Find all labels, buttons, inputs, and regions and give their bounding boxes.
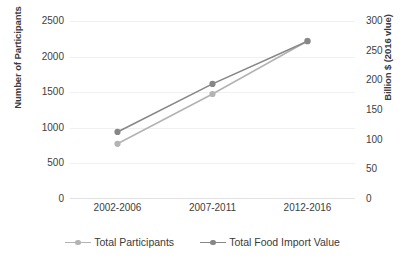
y-axis-left-title: Number of Participants [12, 0, 23, 123]
y-right-tick-250: 250 [366, 46, 383, 56]
y-left-tick-1500: 1500 [42, 87, 64, 97]
data-point [114, 129, 120, 135]
legend-label-total-participants: Total Participants [94, 236, 174, 248]
y-right-tick-100: 100 [366, 135, 383, 145]
y-left-tick-500: 500 [47, 158, 64, 168]
data-point [304, 38, 310, 44]
y-right-tick-50: 50 [366, 164, 377, 174]
y-right-tick-200: 200 [366, 75, 383, 85]
x-axis-label-2007-2011: 2007-2011 [165, 203, 260, 213]
legend-item-total-food-import-value[interactable]: Total Food Import Value [200, 236, 340, 248]
chart-legend: Total Participants Total Food Import Val… [0, 236, 405, 248]
y-right-tick-0: 0 [366, 194, 372, 204]
y-axis-right-title: Billion $ (2016 vlue) [382, 0, 393, 123]
series-plot [70, 21, 355, 199]
legend-marker-icon [65, 237, 91, 247]
y-right-tick-300: 300 [366, 16, 383, 26]
y-left-tick-0: 0 [58, 194, 64, 204]
legend-item-total-participants[interactable]: Total Participants [65, 236, 174, 248]
y-left-tick-2000: 2000 [42, 52, 64, 62]
y-right-tick-150: 150 [366, 105, 383, 115]
y-left-tick-1000: 1000 [42, 123, 64, 133]
line-chart: Number of Participants Billion $ (2016 v… [0, 0, 405, 263]
data-point [209, 81, 215, 87]
x-axis-label-2002-2006: 2002-2006 [70, 203, 165, 213]
legend-label-total-food-import-value: Total Food Import Value [229, 236, 340, 248]
y-left-tick-2500: 2500 [42, 16, 64, 26]
data-point [114, 141, 120, 147]
plot-area [70, 21, 355, 199]
x-axis-label-2012-2016: 2012-2016 [260, 203, 355, 213]
legend-marker-icon [200, 237, 226, 247]
data-point [209, 91, 215, 97]
